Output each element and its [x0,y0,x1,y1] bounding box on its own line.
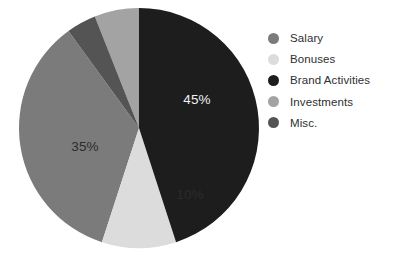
pie-slice-label: 35% [71,139,99,154]
legend-item[interactable]: Investments [268,95,404,109]
legend-swatch-icon [268,33,279,44]
legend-item[interactable]: Misc. [268,116,404,130]
legend-item-label: Investments [290,96,353,108]
legend-swatch-icon [268,54,279,65]
pie-slice-label: 45% [183,92,211,107]
legend-item[interactable]: Brand Activities [268,73,404,87]
pie-slice-label: 10% [176,187,204,202]
legend-swatch-icon [268,117,279,128]
pie-slice-group [19,8,259,248]
legend-item-label: Brand Activities [290,74,370,86]
legend-item-label: Misc. [290,117,317,129]
chart-legend: SalaryBonusesBrand ActivitiesInvestments… [268,31,404,130]
pie-chart-screenshot: 35%10%45% SalaryBonusesBrand ActivitiesI… [0,0,406,260]
legend-item-label: Bonuses [290,53,335,65]
legend-swatch-icon [268,96,279,107]
legend-swatch-icon [268,75,279,86]
legend-item[interactable]: Bonuses [268,52,404,66]
legend-item[interactable]: Salary [268,31,404,45]
legend-item-label: Salary [290,32,323,44]
